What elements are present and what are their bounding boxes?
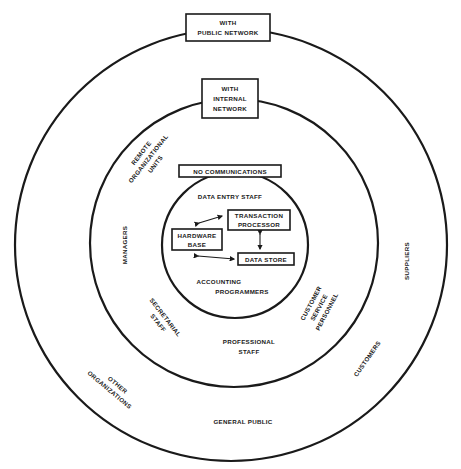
customer-service-label: CUSTOMER SERVICE PERSONNEL (298, 283, 339, 331)
data-entry-staff-label: DATA ENTRY STAFF (198, 193, 262, 200)
data-store-label: DATA STORE (245, 256, 287, 263)
internal-network-line-3: NETWORK (213, 105, 247, 112)
public-network-box: WITH PUBLIC NETWORK (186, 14, 270, 41)
secretarial-staff-label: SECRETARIAL STAFF (141, 297, 182, 344)
hardware-base-line-2: BASE (188, 241, 206, 248)
programmers-label: PROGRAMMERS (215, 288, 269, 295)
public-network-line-2: PUBLIC NETWORK (198, 29, 259, 36)
hardware-base-line-1: HARDWARE (178, 232, 217, 239)
transaction-processor-line-1: TRANSACTION (235, 212, 284, 219)
public-network-line-1: WITH (219, 19, 236, 26)
hardware-base-node: HARDWARE BASE (172, 229, 222, 250)
concentric-diagram: WITH PUBLIC NETWORK WITH INTERNAL NETWOR… (0, 0, 461, 469)
no-communications-label: NO COMMUNICATIONS (193, 168, 267, 175)
accounting-label: ACCOUNTING (197, 278, 242, 285)
suppliers-label: SUPPLIERS (403, 242, 410, 280)
internal-network-line-1: WITH (221, 85, 238, 92)
other-organizations-label: OTHER ORGANIZATIONS (86, 362, 139, 410)
professional-staff-line-1: PROFESSIONAL (223, 338, 275, 345)
transaction-processor-node: TRANSACTION PROCESSOR (228, 210, 290, 230)
professional-staff-line-2: STAFF (239, 348, 260, 355)
customers-label: CUSTOMERS (352, 339, 382, 378)
transaction-processor-line-2: PROCESSOR (238, 221, 280, 228)
managers-label: MANAGERS (121, 226, 128, 265)
internal-network-line-2: INTERNAL (213, 95, 247, 102)
no-communications-box: NO COMMUNICATIONS (179, 165, 281, 177)
internal-network-box: WITH INTERNAL NETWORK (202, 79, 258, 118)
remote-units-label: REMOTE ORGANIZATIONAL UNITS (120, 127, 176, 189)
hardware-transaction-arrow (199, 216, 222, 223)
data-store-node: DATA STORE (238, 253, 294, 265)
general-public-label: GENERAL PUBLIC (213, 418, 272, 425)
hardware-datastore-arrow (198, 256, 234, 259)
